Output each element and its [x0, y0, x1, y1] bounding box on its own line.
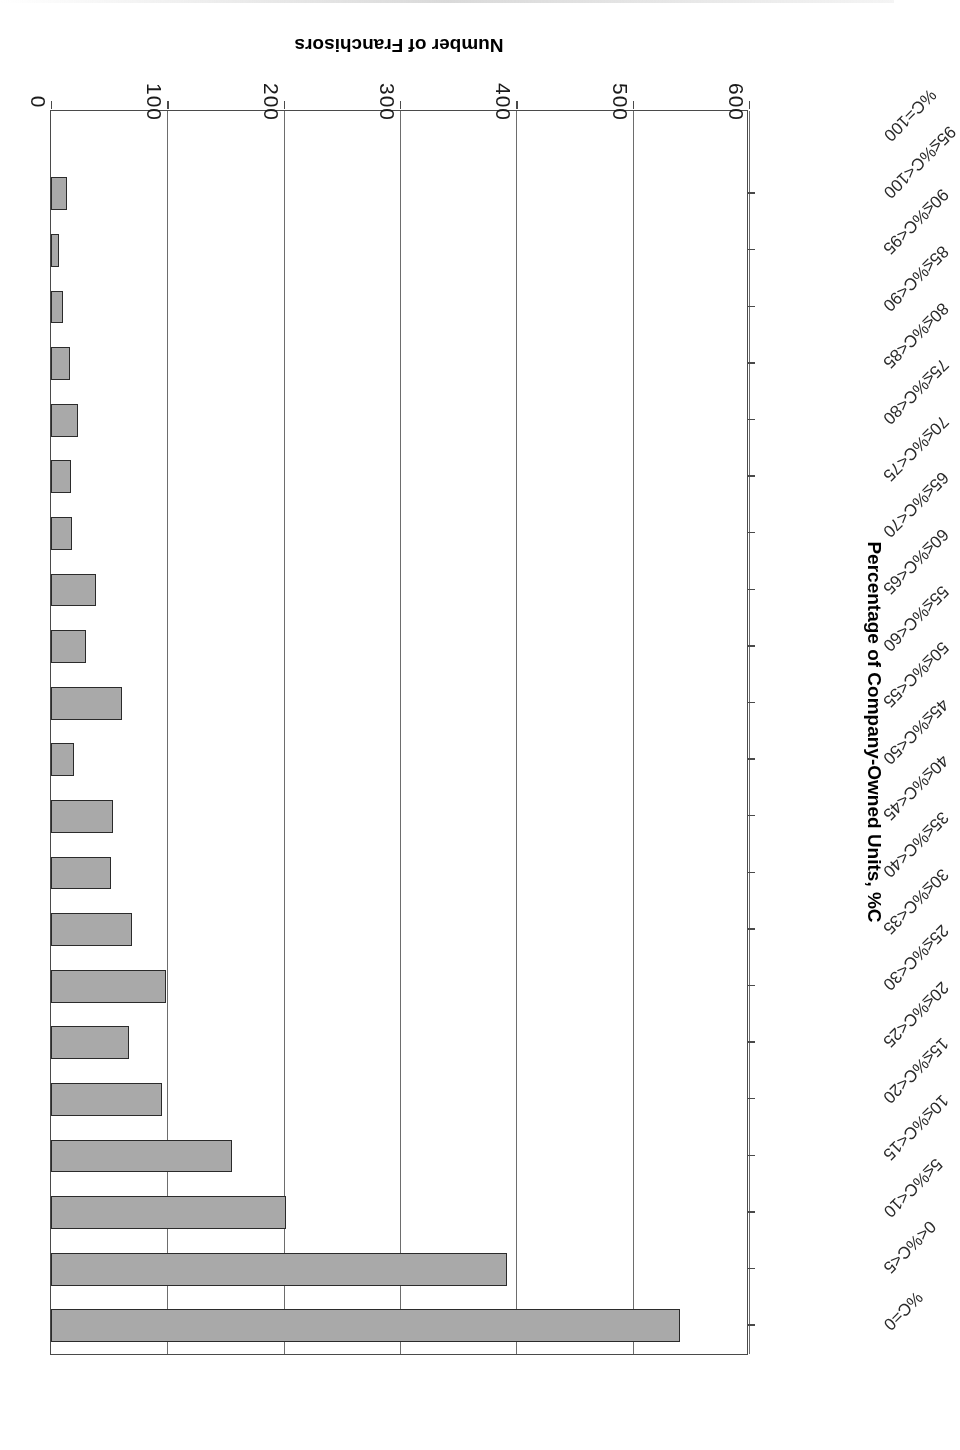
value-tick-label: 600 — [724, 83, 748, 121]
bar-row[interactable] — [51, 460, 747, 493]
bar-row[interactable] — [51, 404, 747, 437]
bar-row[interactable] — [51, 1309, 747, 1342]
value-tick-label: 500 — [608, 83, 632, 121]
bar[interactable] — [51, 970, 166, 1003]
bar[interactable] — [51, 857, 111, 890]
bar[interactable] — [51, 404, 78, 437]
bar-row[interactable] — [51, 743, 747, 776]
value-tick-300 — [400, 101, 401, 109]
bar-row[interactable] — [51, 234, 747, 267]
bar[interactable] — [51, 1083, 162, 1116]
bar-row[interactable] — [51, 800, 747, 833]
bar[interactable] — [51, 1253, 507, 1286]
category-axis-title-text: Percentage of Company-Owned Units, %C — [863, 542, 885, 923]
bar-row[interactable] — [51, 1140, 747, 1173]
bar[interactable] — [51, 1026, 129, 1059]
bar[interactable] — [51, 1309, 680, 1342]
bar[interactable] — [51, 347, 70, 380]
bar[interactable] — [51, 291, 63, 324]
value-tick-label: 200 — [259, 83, 283, 121]
bar[interactable] — [51, 460, 71, 493]
bar[interactable] — [51, 630, 86, 663]
bar-row[interactable] — [51, 687, 747, 720]
category-axis-title: Percentage of Company-Owned Units, %C — [854, 110, 894, 1355]
bar-row[interactable] — [51, 630, 747, 663]
value-tick-500 — [633, 101, 634, 109]
bar-row[interactable] — [51, 913, 747, 946]
value-axis-tick-labels: 0100200300400500600 — [50, 12, 748, 102]
bar[interactable] — [51, 913, 132, 946]
bar-row[interactable] — [51, 970, 747, 1003]
bar[interactable] — [51, 178, 67, 211]
bar-row[interactable] — [51, 1026, 747, 1059]
bar[interactable] — [51, 1196, 286, 1229]
bar-row[interactable] — [51, 1253, 747, 1286]
bar-row[interactable] — [51, 574, 747, 607]
bar-row[interactable] — [51, 1196, 747, 1229]
bar[interactable] — [51, 800, 113, 833]
bar[interactable] — [51, 234, 59, 267]
bar-row[interactable] — [51, 1083, 747, 1116]
bar[interactable] — [51, 517, 72, 550]
value-tick-100 — [167, 101, 168, 109]
bar[interactable] — [51, 743, 74, 776]
bar[interactable] — [51, 574, 96, 607]
bar[interactable] — [51, 687, 122, 720]
value-tick-label: 300 — [375, 83, 399, 121]
value-tick-200 — [284, 101, 285, 109]
bar[interactable] — [51, 1140, 232, 1173]
value-tick-label: 400 — [491, 83, 515, 121]
bar-row[interactable] — [51, 347, 747, 380]
value-tick-0 — [51, 101, 52, 109]
bar-row[interactable] — [51, 291, 747, 324]
value-tick-label: 0 — [26, 96, 50, 109]
bar-row[interactable] — [51, 517, 747, 550]
value-axis-title: Number of Franchisors — [50, 34, 748, 56]
value-tick-400 — [516, 101, 517, 109]
bar-row[interactable] — [51, 178, 747, 211]
bar-row[interactable] — [51, 857, 747, 890]
value-tick-label: 100 — [142, 83, 166, 121]
plot-area — [50, 110, 748, 1355]
value-tick-600 — [749, 101, 750, 109]
